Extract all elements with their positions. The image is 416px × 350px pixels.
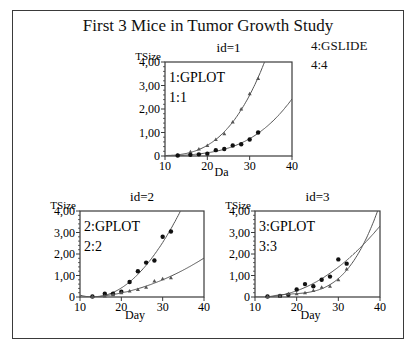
plot-panel-2: 01,002,003,004,0010203040TSizeDayid=22:G…: [50, 159, 210, 322]
panel-title: id=3: [306, 189, 330, 204]
data-point-dot: [294, 287, 298, 291]
data-point-dot: [188, 153, 192, 157]
x-tick-label: 30: [332, 300, 344, 314]
y-axis-label: TSize: [225, 199, 251, 211]
panel-label: 1:GPLOT: [169, 70, 225, 85]
data-point-dot: [231, 143, 235, 147]
x-tick-label: 40: [286, 159, 298, 173]
y-axis-label: TSize: [135, 50, 161, 62]
x-tick-label: 10: [249, 300, 261, 314]
x-axis-label: Day: [125, 308, 145, 322]
y-tick-label: 2,00: [139, 102, 160, 116]
data-point-dot: [336, 257, 340, 261]
y-tick-label: 1,00: [139, 126, 160, 140]
data-point-dot: [239, 142, 243, 146]
data-point-dot: [176, 153, 180, 157]
data-point-triangle: [152, 279, 156, 283]
data-point-triangle: [256, 76, 260, 80]
data-point-dot: [169, 229, 173, 233]
data-point-dot: [127, 280, 131, 284]
data-point-triangle: [169, 276, 173, 280]
panel-title: id=1: [217, 40, 241, 55]
y-axis-label: TSize: [50, 199, 76, 211]
data-point-triangle: [328, 284, 332, 288]
data-point-dot: [152, 258, 156, 262]
x-tick-label: 30: [157, 300, 169, 314]
panel-label: 3:GPLOT: [259, 219, 315, 234]
data-point-dot: [311, 284, 315, 288]
y-tick-label: 2,00: [229, 247, 250, 261]
data-point-dot: [328, 274, 332, 278]
y-tick-label: 1,00: [54, 269, 75, 283]
x-axis-label: Da: [215, 165, 230, 179]
data-point-triangle: [161, 277, 165, 281]
y-tick-label: 3,00: [139, 79, 160, 93]
data-point-dot: [222, 147, 226, 151]
y-tick-label: 3,00: [229, 226, 250, 240]
x-tick-label: 30: [244, 159, 256, 173]
x-axis-label: Day: [301, 308, 321, 322]
data-point-dot: [214, 148, 218, 152]
data-point-dot: [136, 269, 140, 273]
x-tick-label: 40: [374, 300, 386, 314]
panel-index: 3:3: [259, 239, 277, 254]
data-point-dot: [247, 137, 251, 141]
data-point-dot: [319, 278, 323, 282]
data-point-triangle: [311, 289, 315, 293]
fit-curve: [80, 258, 204, 297]
y-tick-label: 3,00: [54, 226, 75, 240]
data-point-dot: [205, 151, 209, 155]
y-tick-label: 2,00: [54, 247, 75, 261]
data-point-dot: [344, 261, 348, 265]
plot-panel-3: 01,002,003,004,0010203040TSizeDayid=33:G…: [225, 189, 386, 322]
x-tick-label: 40: [198, 300, 210, 314]
x-tick-label: 20: [201, 159, 213, 173]
data-point-triangle: [320, 285, 324, 289]
data-point-dot: [197, 152, 201, 156]
y-tick-label: 1,00: [229, 269, 250, 283]
data-point-dot: [144, 260, 148, 264]
x-tick-label: 10: [74, 300, 86, 314]
plot-panel-1: 01,002,003,004,0010203040TSizeDaid=11:GP…: [135, 0, 298, 179]
panel-index: 1:1: [169, 90, 187, 105]
panel-label: 2:GPLOT: [84, 219, 140, 234]
panel-title: id=2: [130, 189, 154, 204]
x-tick-label: 10: [159, 159, 171, 173]
data-point-dot: [160, 235, 164, 239]
data-point-dot: [303, 282, 307, 286]
fit-curve: [255, 226, 380, 297]
panel-index: 2:2: [84, 239, 102, 254]
data-point-dot: [256, 130, 260, 134]
plots-canvas: 01,002,003,004,0010203040TSizeDaid=11:GP…: [0, 0, 416, 350]
